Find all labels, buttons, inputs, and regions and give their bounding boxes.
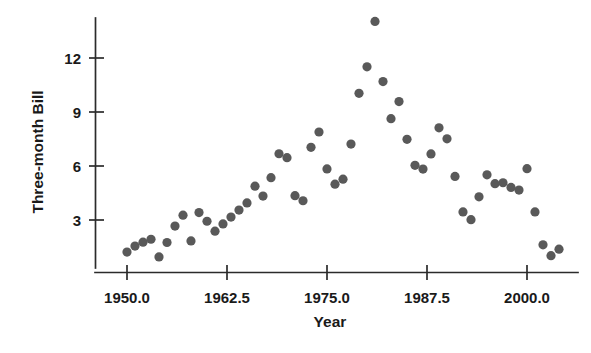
data-point [466,215,475,224]
y-tick-label: 9 [73,104,81,121]
data-point [402,135,411,144]
data-point [330,180,339,189]
x-tick-label: 1950.0 [104,289,150,306]
data-point [138,238,147,247]
data-point [426,149,435,158]
data-point [506,183,515,192]
data-point [386,114,395,123]
data-point [314,127,323,136]
data-point [346,139,355,148]
data-point [234,206,243,215]
scatter-chart: 36912 1950.01962.51975.01987.52000.0 Thr… [0,0,591,353]
data-point [354,89,363,98]
y-tick-label: 12 [64,50,81,67]
data-point [490,179,499,188]
data-point [522,164,531,173]
data-point [530,207,539,216]
data-point [498,178,507,187]
data-point [514,186,523,195]
data-point [290,191,299,200]
x-tick-label: 2000.0 [504,289,550,306]
data-point [226,213,235,222]
data-point-group [122,17,563,262]
data-point [194,208,203,217]
data-point [266,173,275,182]
x-axis-title: Year [314,313,347,330]
data-point [322,164,331,173]
data-point [338,175,347,184]
data-point [162,238,171,247]
data-point [410,161,419,170]
plot-area: 36912 1950.01962.51975.01987.52000.0 Thr… [0,0,591,353]
data-point [282,153,291,162]
y-axis-title: Three-month Bill [29,90,46,213]
data-point [130,242,139,251]
x-tick-group: 1950.01962.51975.01987.52000.0 [104,265,550,306]
data-point [554,245,563,254]
data-point [458,207,467,216]
x-tick-label: 1975.0 [304,289,350,306]
x-tick-label: 1987.5 [404,289,450,306]
data-point [242,198,251,207]
data-point [250,182,259,191]
data-point [442,134,451,143]
data-point [218,219,227,228]
data-point [210,227,219,236]
data-point [370,17,379,26]
y-tick-group: 36912 [64,50,104,229]
data-point [394,97,403,106]
data-point [170,222,179,231]
data-point [274,149,283,158]
data-point [538,240,547,249]
data-point [178,211,187,220]
data-point [258,191,267,200]
y-tick-label: 6 [73,158,81,175]
y-tick-label: 3 [73,212,81,229]
data-point [122,247,131,256]
data-point [306,143,315,152]
data-point [378,77,387,86]
data-point [450,172,459,181]
data-point [186,236,195,245]
x-tick-label: 1962.5 [204,289,250,306]
data-point [474,192,483,201]
data-point [482,170,491,179]
data-point [418,164,427,173]
data-point [362,62,371,71]
data-point [154,252,163,261]
data-point [546,251,555,260]
data-point [202,217,211,226]
data-point [146,235,155,244]
data-point [434,123,443,132]
data-point [298,196,307,205]
